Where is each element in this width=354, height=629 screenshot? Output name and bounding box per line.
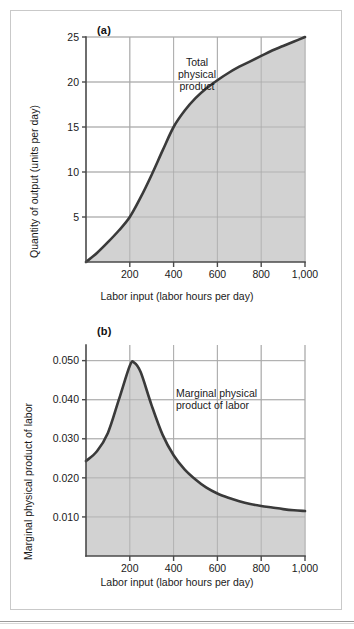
- x-tick-label-600: 600: [209, 268, 227, 280]
- y-tick-label-15: 15: [67, 121, 79, 133]
- panel-b-x-axis-label: Labor input (labor hours per day): [0, 576, 354, 588]
- y-tick-label-0_030: 0.030: [53, 432, 79, 444]
- chart-panel-b: (b) Marginal physical product of labor 0…: [0, 308, 354, 608]
- panel-b-plot: 0.0100.0200.0300.0400.0502004006008001,0…: [0, 308, 354, 578]
- y-tick-label-0_020: 0.020: [53, 472, 79, 484]
- y-tick-label-10: 10: [67, 166, 79, 178]
- x-tick-label-200: 200: [121, 268, 139, 280]
- chart-panel-a: (a) Quantity of output (units per day) 5…: [0, 0, 354, 315]
- y-tick-label-0_010: 0.010: [53, 511, 79, 523]
- x-tick-label-200: 200: [121, 562, 139, 574]
- footer-rule: [0, 621, 354, 622]
- x-tick-label-1000: 1,000: [292, 562, 318, 574]
- x-tick-label-800: 800: [252, 562, 270, 574]
- x-tick-label-400: 400: [165, 562, 183, 574]
- y-tick-label-5: 5: [73, 211, 79, 223]
- y-tick-label-25: 25: [67, 31, 79, 43]
- y-tick-label-0_050: 0.050: [53, 354, 79, 366]
- y-tick-label-20: 20: [67, 76, 79, 88]
- x-tick-label-800: 800: [252, 268, 270, 280]
- footer-rule-secondary: [0, 623, 354, 624]
- x-tick-label-400: 400: [165, 268, 183, 280]
- x-tick-label-600: 600: [209, 562, 227, 574]
- panel-a-x-axis-label: Labor input (labor hours per day): [0, 290, 354, 302]
- curve-annotation-label: Totalphysicalproduct: [178, 56, 216, 92]
- figure-production-functions: (a) Quantity of output (units per day) 5…: [0, 0, 354, 629]
- curve-annotation-label: Marginal physicalproduct of labor: [176, 387, 257, 411]
- panel-a-plot: 5101520252004006008001,000Totalphysicalp…: [0, 0, 354, 290]
- x-tick-label-1000: 1,000: [292, 268, 318, 280]
- y-tick-label-0_040: 0.040: [53, 393, 79, 405]
